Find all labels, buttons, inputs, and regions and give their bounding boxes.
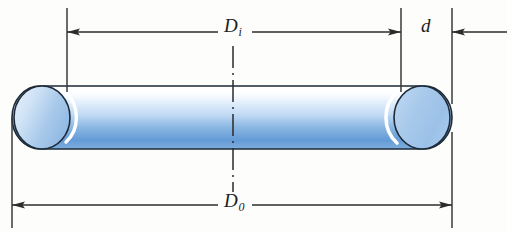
outer-diameter-subscript: 0 xyxy=(238,200,245,214)
outer-diameter-label: D0 xyxy=(224,191,245,213)
outer-diameter-symbol: D xyxy=(224,190,238,211)
right-end-cap xyxy=(394,86,450,149)
tube-top-highlight xyxy=(40,87,424,101)
inner-diameter-label: Di xyxy=(224,16,242,38)
left-end-cap xyxy=(14,86,70,149)
inner-diameter-subscript: i xyxy=(238,25,242,39)
o-ring-body xyxy=(12,86,452,149)
cord-diameter-symbol: d xyxy=(421,15,431,36)
o-ring-dimension-figure: Di D0 d xyxy=(0,0,507,232)
inner-diameter-symbol: D xyxy=(224,15,238,36)
cord-diameter-label: d xyxy=(421,16,431,35)
